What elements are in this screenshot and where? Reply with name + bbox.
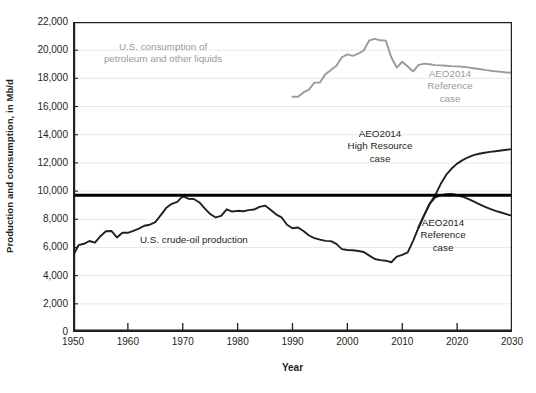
x-axis-title: Year: [73, 362, 512, 373]
aeo-high-resource-label: AEO2014High Resourcecase: [348, 128, 413, 164]
y-tick-label: 14,000: [22, 130, 68, 140]
figure-container: Production and consumption, in Mb/d 02,0…: [0, 0, 536, 393]
y-tick-label: 4,000: [22, 271, 68, 281]
x-tick-label: 2000: [336, 336, 358, 347]
x-tick-label: 2020: [446, 336, 468, 347]
consumption-label: U.S. consumption ofpetroleum and other l…: [104, 41, 222, 64]
chart-svg: U.S. consumption ofpetroleum and other l…: [73, 22, 512, 332]
x-tick-label: 1990: [281, 336, 303, 347]
y-tick-label: 12,000: [22, 158, 68, 168]
aeo-reference-gray-label: AEO2014Referencecase: [427, 68, 473, 104]
y-tick-label: 16,000: [22, 102, 68, 112]
annotation-line: U.S. crude-oil production: [140, 234, 248, 245]
annotation-line: case: [433, 242, 454, 253]
annotation-line: Reference: [427, 80, 473, 91]
x-tick-label: 1970: [172, 336, 194, 347]
y-tick-label: 22,000: [22, 17, 68, 27]
annotation-line: AEO2014: [422, 217, 465, 228]
y-tick-label: 6,000: [22, 242, 68, 252]
annotation-line: Reference: [420, 229, 466, 240]
x-tick-label: 2030: [501, 336, 523, 347]
x-tick-label: 2010: [391, 336, 413, 347]
x-tick-label: 1960: [117, 336, 139, 347]
y-axis-tick-labels: 02,0004,0006,0008,00010,00012,00014,0001…: [20, 0, 68, 340]
annotation-line: AEO2014: [359, 128, 402, 139]
y-tick-label: 10,000: [22, 186, 68, 196]
annotation-line: AEO2014: [429, 68, 472, 79]
series-line-aeo2014-high-resource-case: [419, 149, 512, 227]
annotation-line: U.S. consumption of: [119, 41, 207, 52]
plot-area: U.S. consumption ofpetroleum and other l…: [73, 22, 512, 332]
x-tick-label: 1950: [62, 336, 84, 347]
y-tick-label: 8,000: [22, 214, 68, 224]
series-line-u-s-crude-oil-production: [73, 196, 419, 262]
y-axis-title: Production and consumption, in Mb/d: [0, 0, 20, 332]
series-line-u-s-consumption-of-petroleum-and-other-liquids: [293, 39, 513, 97]
annotation-line: case: [370, 153, 391, 164]
annotation-line: petroleum and other liquids: [104, 53, 222, 64]
y-tick-label: 20,000: [22, 45, 68, 55]
y-tick-label: 18,000: [22, 73, 68, 83]
annotation-line: High Resource: [348, 140, 413, 151]
y-tick-label: 2,000: [22, 299, 68, 309]
crude-oil-production-label: U.S. crude-oil production: [140, 234, 248, 245]
x-axis-title-text: Year: [282, 362, 303, 373]
y-axis-title-text: Production and consumption, in Mb/d: [4, 79, 15, 253]
annotation-line: case: [440, 93, 461, 104]
x-tick-label: 1980: [227, 336, 249, 347]
